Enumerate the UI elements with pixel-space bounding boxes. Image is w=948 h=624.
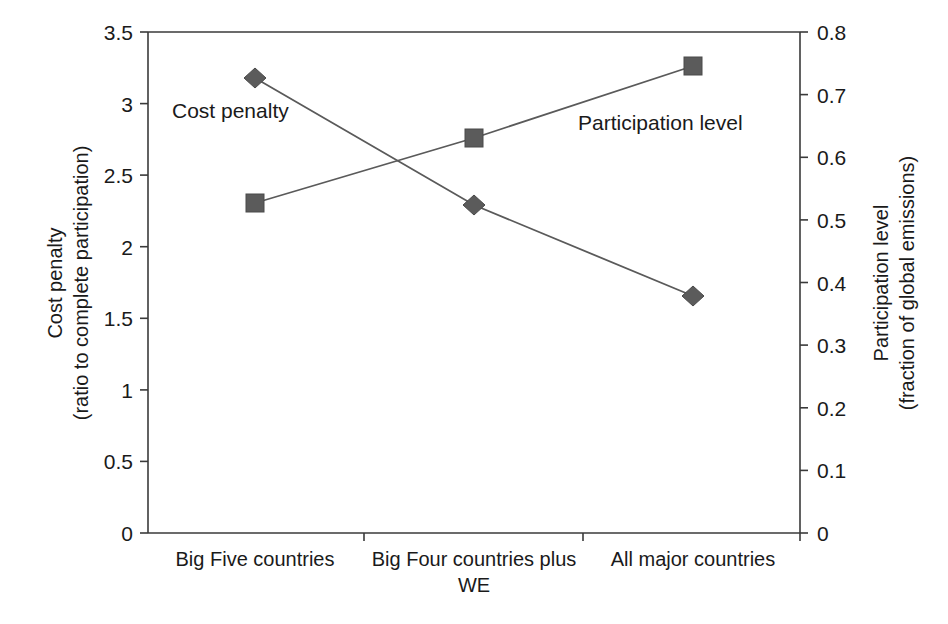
left-tick-label-0: 0 xyxy=(121,522,133,545)
right-axis-title-line1: Participation level xyxy=(870,205,892,362)
participation-level-marker-2[interactable] xyxy=(465,129,483,147)
cost-penalty-marker-1[interactable] xyxy=(244,68,266,88)
right-tick-label-0.8: 0.8 xyxy=(817,21,846,44)
left-axis-title-line1: Cost penalty xyxy=(44,227,66,338)
right-tick-label-0.5: 0.5 xyxy=(817,209,846,232)
right-tick-label-0.2: 0.2 xyxy=(817,397,846,420)
right-axis-title-line2: (fraction of global emissions) xyxy=(896,156,918,411)
x-category-label-2-line1: Big Four countries plus xyxy=(372,548,577,570)
right-tick-label-0.1: 0.1 xyxy=(817,459,846,482)
series-cost-penalty xyxy=(244,68,704,306)
left-tick-label-1: 1 xyxy=(121,379,133,402)
right-axis-title: Participation level (fraction of global … xyxy=(870,156,918,411)
left-tick-label-3: 3 xyxy=(121,93,133,116)
left-tick-label-3.5: 3.5 xyxy=(104,21,133,44)
annotation-participation-level: Participation level xyxy=(578,111,743,134)
participation-level-marker-1[interactable] xyxy=(246,194,264,212)
right-axis-ticks xyxy=(800,32,808,533)
chart-figure: 3.5 3 2.5 2 1.5 1 0.5 0 0.8 0.7 0.6 0.5 xyxy=(0,0,948,624)
x-axis-category-labels: Big Five countries Big Four countries pl… xyxy=(176,548,776,596)
right-axis-tick-labels: 0.8 0.7 0.6 0.5 0.4 0.3 0.2 0.1 0 xyxy=(817,21,847,545)
left-tick-label-2.5: 2.5 xyxy=(104,164,133,187)
right-tick-label-0.4: 0.4 xyxy=(817,272,847,295)
x-category-label-1: Big Five countries xyxy=(176,548,335,570)
participation-level-marker-3[interactable] xyxy=(684,57,702,75)
series-annotations: Cost penalty Participation level xyxy=(172,99,743,134)
cost-penalty-marker-3[interactable] xyxy=(682,286,704,306)
right-tick-label-0.7: 0.7 xyxy=(817,84,846,107)
annotation-cost-penalty: Cost penalty xyxy=(172,99,289,122)
left-axis-ticks xyxy=(140,32,148,533)
right-tick-label-0.3: 0.3 xyxy=(817,334,846,357)
left-axis-title-line2: (ratio to complete participation) xyxy=(70,146,92,421)
right-tick-label-0.6: 0.6 xyxy=(817,146,846,169)
line-chart-canvas: 3.5 3 2.5 2 1.5 1 0.5 0 0.8 0.7 0.6 0.5 xyxy=(0,0,948,624)
x-axis-ticks xyxy=(364,533,800,541)
left-tick-label-1.5: 1.5 xyxy=(104,307,133,330)
x-category-label-3: All major countries xyxy=(611,548,776,570)
cost-penalty-marker-2[interactable] xyxy=(463,195,485,215)
left-tick-label-2: 2 xyxy=(121,236,133,259)
right-tick-label-0: 0 xyxy=(817,522,829,545)
series-participation-level xyxy=(246,57,702,212)
left-axis-tick-labels: 3.5 3 2.5 2 1.5 1 0.5 0 xyxy=(104,21,133,545)
x-category-label-2-line2: WE xyxy=(458,574,490,596)
left-tick-label-0.5: 0.5 xyxy=(104,450,133,473)
left-axis-title: Cost penalty (ratio to complete particip… xyxy=(44,146,92,421)
